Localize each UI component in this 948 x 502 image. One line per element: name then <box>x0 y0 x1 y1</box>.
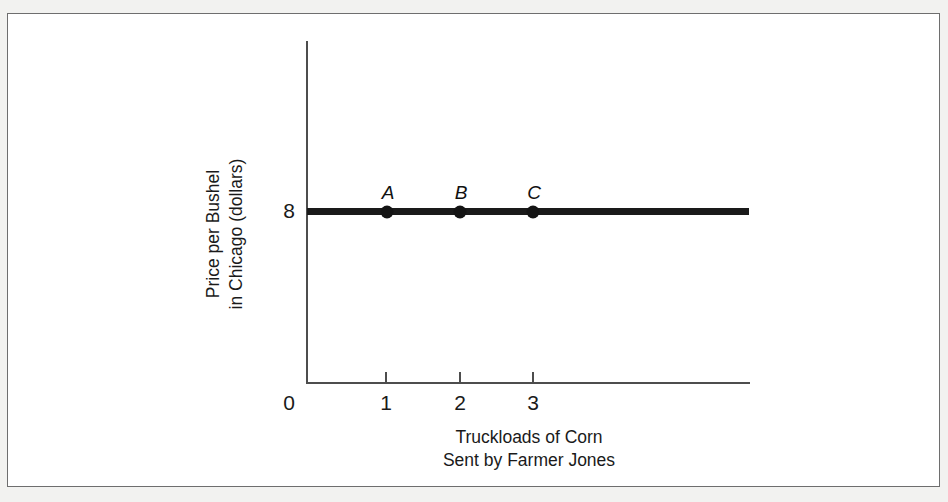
x-axis-tick-label-2: 2 <box>454 391 466 415</box>
y-axis-title-line-2: in Chicago (dollars) <box>226 159 246 310</box>
chart-plot-area: 0 1 2 3 8 A B C Price per Bushel in Chic… <box>8 14 941 488</box>
y-axis-title-line-1: Price per Bushel <box>203 170 223 298</box>
y-axis-tick-label-8: 8 <box>283 199 295 223</box>
x-axis-line <box>306 382 750 384</box>
x-axis-tick-label-3: 3 <box>527 391 539 415</box>
x-axis-tick-label-1: 1 <box>380 391 392 415</box>
x-axis-origin-label: 0 <box>283 391 295 415</box>
x-axis-tick-2 <box>459 372 461 383</box>
y-axis-title: Price per Bushel in Chicago (dollars) <box>194 134 256 334</box>
y-axis-title-text: Price per Bushel in Chicago (dollars) <box>202 159 248 310</box>
data-point-a <box>381 206 394 219</box>
data-point-label-a: A <box>382 182 395 204</box>
x-axis-tick-3 <box>532 372 534 383</box>
x-axis-title-line-2: Sent by Farmer Jones <box>443 450 615 470</box>
data-point-c <box>527 206 540 219</box>
data-point-label-c: C <box>527 182 541 204</box>
x-axis-title-line-1: Truckloads of Corn <box>455 427 602 447</box>
x-axis-title: Truckloads of Corn Sent by Farmer Jones <box>307 426 751 472</box>
data-point-label-b: B <box>455 182 468 204</box>
x-axis-tick-1 <box>385 372 387 383</box>
figure-frame: 0 1 2 3 8 A B C Price per Bushel in Chic… <box>7 13 940 487</box>
data-point-b <box>454 206 467 219</box>
